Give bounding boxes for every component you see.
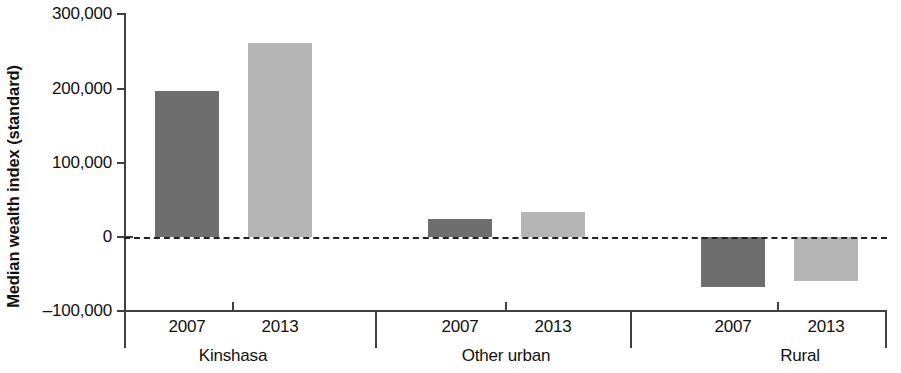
group-divider-left	[124, 310, 126, 348]
x-tick-kinshasa-mid	[232, 302, 234, 310]
group-divider-kinshasa-otherurban	[375, 310, 377, 348]
x-axis-line	[124, 310, 887, 312]
bar-rural-2007	[701, 237, 765, 287]
y-tick-mark-100k	[117, 162, 125, 164]
bar-chart: Median wealth index (standard) 300,000 2…	[0, 0, 901, 373]
y-tick-label-100k: 100,000	[0, 153, 112, 173]
x-label-kinshasa-2013: 2013	[261, 317, 298, 337]
x-label-otherurban-2013: 2013	[534, 317, 571, 337]
y-tick-mark-200k	[117, 88, 125, 90]
zero-baseline	[124, 237, 887, 239]
y-tick-label-300k: 300,000	[0, 4, 112, 24]
y-tick-label-neg100k: –100,000	[0, 301, 112, 321]
x-label-otherurban-2007: 2007	[441, 317, 478, 337]
bar-rural-2013	[794, 237, 858, 281]
group-divider-right	[885, 310, 887, 348]
plot-area: 300,000 200,000 100,000 0 –100,000 2007 …	[0, 0, 901, 373]
x-label-rural-2007: 2007	[714, 317, 751, 337]
x-tick-rural-mid	[777, 302, 779, 310]
bar-kinshasa-2007	[155, 91, 219, 237]
y-tick-label-200k: 200,000	[0, 79, 112, 99]
y-tick-label-0: 0	[0, 227, 112, 247]
x-group-label-kinshasa: Kinshasa	[199, 346, 267, 366]
x-tick-otherurban-mid	[505, 302, 507, 310]
bar-otherurban-2013	[521, 212, 585, 237]
group-divider-otherurban-rural	[630, 310, 632, 348]
bar-kinshasa-2013	[248, 43, 312, 237]
x-label-kinshasa-2007: 2007	[168, 317, 205, 337]
x-group-label-otherurban: Other urban	[462, 346, 551, 366]
x-label-rural-2013: 2013	[807, 317, 844, 337]
y-tick-mark-300k	[117, 13, 125, 15]
x-group-label-rural: Rural	[780, 346, 820, 366]
y-axis-line	[124, 13, 126, 345]
bar-otherurban-2007	[428, 219, 492, 237]
